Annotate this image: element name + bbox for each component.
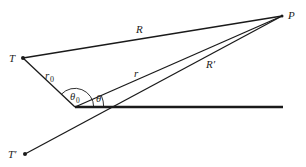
label-r0: r 0 xyxy=(45,69,54,84)
point-P xyxy=(281,15,284,18)
label-R: R xyxy=(135,23,143,35)
segment-r0 xyxy=(23,58,75,107)
point-T-prime xyxy=(23,152,27,156)
label-r: r xyxy=(134,67,139,79)
geometry-diagram: T P T′ R R′ r r 0 θ 0 θ xyxy=(0,0,306,167)
label-theta0-subscript: 0 xyxy=(76,96,80,105)
label-T-prime: T′ xyxy=(8,148,17,160)
label-P: P xyxy=(287,9,295,21)
label-R-prime: R′ xyxy=(205,58,216,70)
segment-r xyxy=(75,16,282,107)
point-T xyxy=(21,56,25,60)
label-theta: θ xyxy=(96,93,101,104)
label-theta0-base: θ xyxy=(70,91,75,102)
angle-arc-theta xyxy=(101,95,103,107)
label-r0-subscript: 0 xyxy=(50,75,54,84)
label-T: T xyxy=(9,52,16,64)
